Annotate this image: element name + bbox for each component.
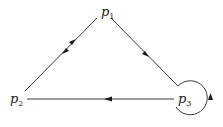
node-p1-label: p1	[101, 4, 114, 21]
arrow-left-icon	[104, 97, 112, 102]
arrow-up-icon	[208, 93, 213, 100]
arrow-up-right-icon	[69, 39, 76, 45]
edge-p3-p2	[27, 97, 174, 102]
node-p3-label: p3	[178, 91, 191, 108]
edge-p1-p2	[25, 18, 97, 91]
arrow-down-right-icon	[142, 51, 149, 57]
state-transition-diagram: p1 p2 p3	[0, 0, 223, 127]
edge-p1-p3	[111, 18, 178, 86]
node-p2-label: p2	[10, 91, 23, 108]
arrow-down-left-icon	[62, 48, 69, 54]
